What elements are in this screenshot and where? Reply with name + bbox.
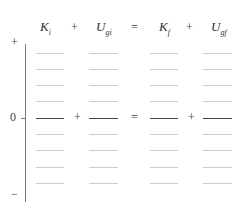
axis-plus-label: + (11, 35, 18, 50)
blank-bar-line (150, 85, 178, 86)
vertical-axis (25, 44, 26, 202)
blank-bar-line (150, 183, 178, 184)
zero-bar-line (150, 118, 178, 119)
blank-bar-line (150, 134, 178, 135)
blank-bar-line (89, 183, 118, 184)
term-subscript: gf (220, 28, 226, 37)
zero-bar-line (36, 118, 64, 119)
zero-bar-line (203, 118, 232, 119)
blank-bar-line (36, 167, 64, 168)
term-ki: Ki (40, 19, 51, 37)
blank-bar-line (203, 53, 232, 54)
plus-operator: + (71, 20, 78, 35)
blank-bar-line (36, 53, 64, 54)
zero-bar-line (89, 118, 118, 119)
term-subscript: f (168, 28, 170, 37)
blank-bar-line (203, 134, 232, 135)
term-kf: Kf (159, 19, 170, 37)
equals-operator: = (131, 20, 138, 35)
axis-zero-tick (21, 118, 25, 119)
blank-bar-line (150, 69, 178, 70)
blank-bar-line (89, 167, 118, 168)
term-subscript: gi (105, 28, 111, 37)
blank-bar-line (89, 85, 118, 86)
blank-bar-line (203, 85, 232, 86)
blank-bar-line (203, 69, 232, 70)
blank-bar-line (36, 69, 64, 70)
blank-bar-line (89, 101, 118, 102)
blank-bar-line (36, 150, 64, 151)
blank-bar-line (36, 183, 64, 184)
blank-bar-line (89, 53, 118, 54)
blank-bar-line (89, 69, 118, 70)
blank-bar-line (150, 150, 178, 151)
blank-bar-line (150, 167, 178, 168)
term-symbol: U (96, 19, 105, 34)
term-ugi: Ugi (96, 19, 112, 37)
zero-row-plus: + (74, 110, 81, 125)
term-symbol: K (40, 19, 49, 34)
blank-bar-line (36, 134, 64, 135)
axis-minus-label: − (11, 187, 18, 202)
axis-zero-label: 0 (10, 110, 16, 125)
term-symbol: K (159, 19, 168, 34)
blank-bar-line (150, 53, 178, 54)
term-symbol: U (211, 19, 220, 34)
blank-bar-line (36, 101, 64, 102)
zero-row-equals: = (131, 110, 138, 125)
plus-operator: + (186, 20, 193, 35)
blank-bar-line (203, 150, 232, 151)
blank-bar-line (36, 85, 64, 86)
term-ugf: Ugf (211, 19, 227, 37)
blank-bar-line (203, 101, 232, 102)
blank-bar-line (203, 183, 232, 184)
zero-row-plus: + (188, 110, 195, 125)
term-subscript: i (49, 28, 51, 37)
blank-bar-line (89, 134, 118, 135)
blank-bar-line (150, 101, 178, 102)
blank-bar-line (89, 150, 118, 151)
blank-bar-line (203, 167, 232, 168)
